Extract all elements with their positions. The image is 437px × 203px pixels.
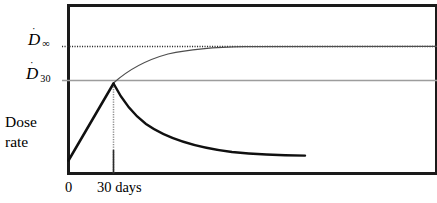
y-axis-title-line-1: Dose (5, 112, 37, 132)
d-infinity-label: ˙D∞ (28, 31, 50, 50)
d-infinity-subscript: ∞ (42, 38, 50, 49)
continued-buildup-curve (114, 46, 437, 83)
buildup-line (69, 84, 114, 161)
y-axis-title-line-2: rate (5, 132, 37, 152)
d-infinity-symbol: ˙D (28, 31, 40, 48)
d-30-label: ˙D30 (26, 65, 50, 84)
plot-canvas (0, 0, 437, 203)
y-axis-title: Dose rate (5, 112, 37, 152)
overdot-accent-icon: ˙ (32, 27, 36, 39)
x-tick-label-zero: 0 (65, 180, 72, 195)
d-30-subscript: 30 (40, 73, 50, 84)
plot-frame (67, 5, 437, 175)
dose-rate-figure: ˙D∞ ˙D30 Dose rate 0 30 days (0, 0, 437, 203)
decay-curve (114, 84, 306, 156)
overdot-accent-icon: ˙ (30, 61, 34, 73)
x-tick-label-thirty-days: 30 days (97, 180, 142, 195)
d-30-symbol: ˙D (26, 65, 38, 82)
